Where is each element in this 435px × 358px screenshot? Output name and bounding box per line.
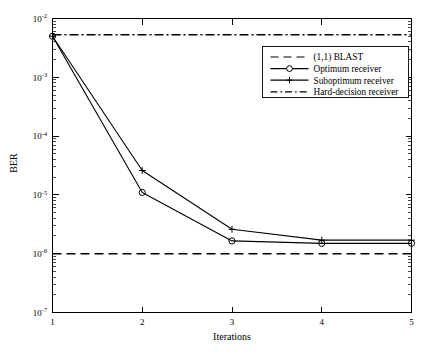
- y-tick-label: 10-3: [33, 71, 47, 83]
- x-tick-label: 2: [140, 317, 145, 327]
- legend-label: Suboptimum receiver: [314, 76, 395, 86]
- x-tick-label: 1: [50, 317, 55, 327]
- x-tick-label: 5: [409, 317, 414, 327]
- x-tick-label: 3: [230, 317, 235, 327]
- legend-label: Hard-decision receiver: [314, 87, 400, 97]
- legend-label: Optimum receiver: [314, 64, 383, 74]
- ber-vs-iterations-chart: 10-710-610-510-410-310-2 12345 BER Itera…: [0, 0, 435, 358]
- y-axis-title: BER: [8, 153, 19, 173]
- y-tick-label: 10-6: [33, 247, 47, 259]
- x-tick-label: 4: [320, 317, 325, 327]
- y-tick-label: 10-4: [33, 130, 47, 142]
- legend-label: (1,1) BLAST: [314, 52, 364, 63]
- figure-container: 10-710-610-510-410-310-2 12345 BER Itera…: [0, 0, 435, 358]
- y-tick-label: 10-7: [33, 306, 47, 318]
- x-axis-title: Iterations: [213, 331, 251, 342]
- legend-marker-circle: [287, 66, 293, 72]
- y-axis-tick-labels: 10-710-610-510-410-310-2: [33, 12, 47, 318]
- legend: (1,1) BLASTOptimum receiverSuboptimum re…: [263, 47, 409, 98]
- y-tick-label: 10-2: [33, 12, 47, 24]
- x-axis-tick-labels: 12345: [50, 317, 414, 327]
- y-tick-label: 10-5: [33, 189, 47, 201]
